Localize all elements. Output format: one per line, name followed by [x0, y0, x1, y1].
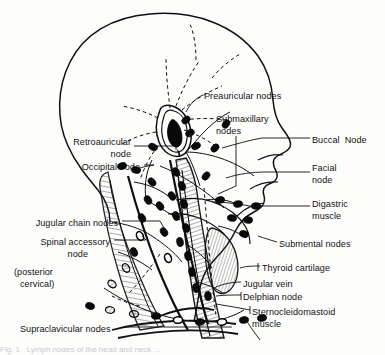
leader-facial	[226, 172, 310, 178]
leader-thyroid	[240, 266, 260, 268]
label-retroauricular-node-line2: node	[31, 149, 131, 160]
label-delphian-node: Delphian node	[243, 292, 302, 303]
label-submental-nodes: Submental nodes	[279, 239, 351, 250]
label-preauricular-nodes: Preauricular nodes	[204, 91, 281, 102]
label-posterior-cervical-line2: cervical)	[20, 279, 54, 290]
leader-scm	[216, 304, 250, 310]
label-thyroid-cartilage: Thyroid cartilage	[262, 263, 330, 274]
leader-buccal	[222, 138, 310, 148]
leader-delphian	[216, 295, 241, 296]
leader-occipital	[140, 165, 154, 168]
anatomical-figure: Retroauricular node Occipital node Jugul…	[0, 0, 385, 355]
label-sternocleidomastoid-muscle: Sternocleidomastoid	[252, 307, 335, 318]
label-spinal-accessory-node: Spinal accessory	[10, 237, 110, 248]
cut-off-caption: Fig. 1 Lymph nodes of the head and neck …	[0, 345, 385, 355]
label-sternocleidomastoid-muscle-line2: muscle	[252, 319, 281, 330]
label-spinal-accessory-node-line2: node	[18, 249, 88, 260]
label-digastric-muscle-line2: muscle	[312, 211, 341, 222]
label-digastric-muscle: Digastric	[312, 199, 348, 210]
label-occipital-node: Occipital node	[30, 162, 140, 173]
label-facial-node: Facial	[312, 163, 337, 174]
label-supraclavicular-nodes: Supraclavicular nodes	[20, 324, 111, 335]
label-posterior-cervical: (posterior	[14, 267, 53, 278]
label-submaxillary-nodes-line2: nodes	[216, 126, 241, 137]
label-buccal-node: Buccal Node	[312, 135, 367, 146]
label-facial-node-line2: node	[312, 175, 332, 186]
label-jugular-chain-nodes: Jugular chain nodes	[8, 218, 118, 229]
label-submaxillary-nodes: Submaxillary	[216, 114, 269, 125]
label-jugular-vein: Jugular vein	[243, 279, 293, 290]
label-retroauricular-node: Retroauricular	[31, 137, 131, 148]
leader-submental	[258, 236, 277, 242]
